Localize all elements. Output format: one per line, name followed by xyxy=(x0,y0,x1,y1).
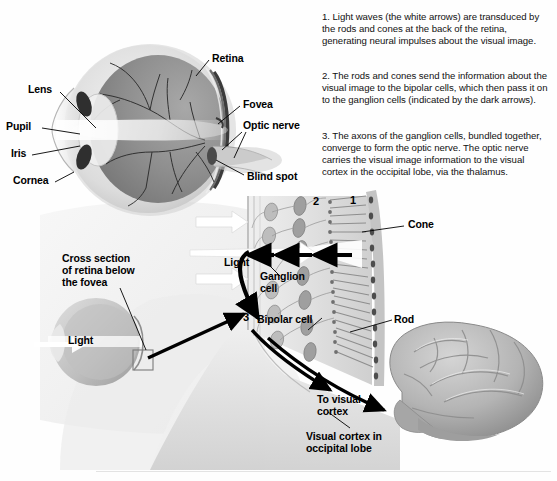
label-light-arrows: Light xyxy=(224,256,249,268)
bottom-divider-rule xyxy=(96,471,551,472)
label-light-small-eye: Light xyxy=(68,334,93,346)
layer-number-1: 1 xyxy=(350,194,356,206)
label-cross-section-of-retina: Cross section of retina below the fovea xyxy=(62,252,135,288)
layer-number-2: 2 xyxy=(313,195,319,207)
brain-illustration xyxy=(390,322,543,441)
label-retina: Retina xyxy=(212,52,244,64)
label-cone: Cone xyxy=(408,218,434,230)
label-visual-cortex-occipital-lobe: Visual cortex in occipital lobe xyxy=(306,430,382,454)
eye-retina-visual-pathway-figure: 1. Light waves (the white arrows) are tr… xyxy=(0,0,557,481)
label-lens: Lens xyxy=(28,83,52,95)
explanation-step-2: 2. The rods and cones send the informati… xyxy=(322,70,550,106)
label-pupil: Pupil xyxy=(6,120,31,132)
explanation-step-1: 1. Light waves (the white arrows) are tr… xyxy=(322,11,550,47)
label-iris: Iris xyxy=(11,147,26,159)
label-to-visual-cortex: To visual cortex xyxy=(317,393,361,417)
label-optic-nerve: Optic nerve xyxy=(243,119,300,131)
label-cornea: Cornea xyxy=(13,174,49,186)
label-bipolar-cell: Bipolar cell xyxy=(257,313,312,325)
label-ganglion-cell: Ganglion cell xyxy=(260,270,305,294)
layer-number-3: 3 xyxy=(243,311,249,323)
label-fovea: Fovea xyxy=(243,98,273,110)
label-rod: Rod xyxy=(394,313,414,325)
explanation-step-3: 3. The axons of the ganglion cells, bund… xyxy=(322,130,550,178)
label-blind-spot: Blind spot xyxy=(247,170,297,182)
